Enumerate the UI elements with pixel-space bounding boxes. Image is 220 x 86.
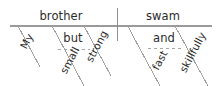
slant-small-top bbox=[52, 26, 58, 37]
subject-word: brother bbox=[39, 9, 82, 23]
slant-line-group bbox=[18, 26, 208, 86]
modifier-word-group: Mysmallstrongfastskillfully bbox=[18, 28, 208, 75]
sentence-diagram: brother swam Mysmallstrongfastskillfully… bbox=[0, 0, 220, 86]
modifier-word-my: My bbox=[18, 31, 36, 50]
verb-word: swam bbox=[146, 9, 180, 23]
diagram-canvas: brother swam Mysmallstrongfastskillfully… bbox=[0, 0, 220, 86]
conjunction-word-group: butand bbox=[63, 31, 175, 45]
conjunction-word-and: and bbox=[153, 31, 175, 45]
modifier-word-small: small bbox=[57, 45, 81, 76]
slant-fast-top bbox=[128, 26, 133, 36]
modifier-word-skillfully: skillfully bbox=[177, 30, 208, 74]
modifier-word-fast: fast bbox=[149, 48, 169, 71]
modifier-word-strong: strong bbox=[83, 28, 110, 64]
conjunction-word-but: but bbox=[63, 31, 83, 45]
